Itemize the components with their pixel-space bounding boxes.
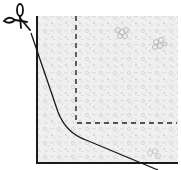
patterned-paper: [37, 16, 178, 163]
scissors-icon: [4, 4, 30, 30]
cutting-diagram: [0, 0, 181, 170]
